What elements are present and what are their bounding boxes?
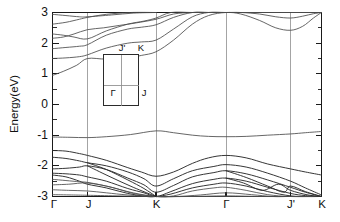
x-axis-tick-labels: Γ J K Γ J' K [51, 198, 326, 210]
y-tick-label-1: 1 [41, 66, 48, 80]
y-tick-label-2: 2 [41, 36, 48, 50]
brillouin-zone-inset: J' K Γ J [104, 42, 147, 106]
y-axis-minor-ticks [53, 28, 322, 181]
band-curves [53, 12, 322, 197]
x-tick-label-j-prime: J' [287, 198, 295, 210]
band-curve [53, 131, 322, 138]
x-tick-label-gamma-1: Γ [51, 198, 58, 210]
band-structure-plot: 3 2 1 0 -1 -2 -3 Energy(eV) [0, 0, 340, 222]
inset-label-j-prime: J' [119, 42, 126, 53]
x-tick-label-j: J [86, 198, 92, 210]
y-axis-tick-labels: 3 2 1 0 -1 -2 -3 [37, 5, 48, 203]
y-axis-title-group: Energy(eV) [8, 75, 20, 133]
band-curve [53, 12, 322, 58]
y-tick-label-neg3: -3 [37, 189, 48, 203]
inset-label-gamma: Γ [110, 87, 115, 98]
inset-label-k: K [138, 42, 145, 53]
y-tick-label-0: 0 [41, 97, 48, 111]
y-tick-label-3: 3 [41, 5, 48, 19]
x-tick-label-k-1: K [153, 198, 161, 210]
y-tick-label-neg2: -2 [37, 158, 48, 172]
y-tick-label-neg1: -1 [37, 128, 48, 142]
band-structure-figure: 3 2 1 0 -1 -2 -3 Energy(eV) [0, 0, 340, 222]
x-tick-label-gamma-2: Γ [223, 198, 230, 210]
x-tick-label-k-2: K [318, 198, 326, 210]
band-curve [53, 12, 322, 75]
y-axis-title: Energy(eV) [8, 75, 20, 133]
inset-label-j: J [142, 87, 147, 98]
